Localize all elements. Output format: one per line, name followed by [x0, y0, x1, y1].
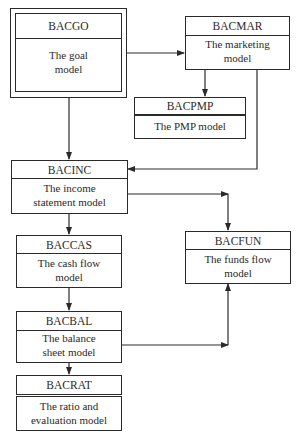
- node-bacrat: The ratio and evaluation model: [16, 396, 122, 431]
- node-bacmar: BACMAR The marketing model: [185, 16, 290, 70]
- node-bacpmp: The PMP model: [134, 115, 246, 139]
- node-code: BACGO: [16, 14, 121, 39]
- node-label: The marketing model: [186, 36, 289, 69]
- node-bacfun: BACFUN The funds flow model: [185, 231, 291, 284]
- node-bacpmp-header: BACPMP: [134, 97, 246, 115]
- node-code: BACCAS: [17, 236, 121, 254]
- node-code: BACINC: [12, 161, 127, 179]
- node-label: The cash flow model: [17, 254, 121, 287]
- node-label: The funds flow model: [186, 250, 290, 283]
- node-bacrat-header: BACRAT: [16, 375, 122, 395]
- node-bacgo: BACGO The goal model: [15, 13, 122, 92]
- node-label: The balance sheet model: [17, 331, 121, 362]
- node-label: The ratio and evaluation model: [17, 397, 121, 430]
- node-label: The goal model: [16, 39, 121, 91]
- node-label: The PMP model: [135, 116, 245, 138]
- node-code: BACRAT: [17, 376, 121, 394]
- node-code: BACFUN: [186, 232, 290, 250]
- node-code: BACMAR: [186, 17, 289, 36]
- node-label: The income statement model: [12, 179, 127, 213]
- node-baccas: BACCAS The cash flow model: [16, 235, 122, 288]
- node-code: BACPMP: [135, 98, 245, 114]
- node-code: BACBAL: [17, 312, 121, 331]
- node-bacbal: BACBAL The balance sheet model: [16, 311, 122, 363]
- node-bacinc: BACINC The income statement model: [11, 160, 128, 214]
